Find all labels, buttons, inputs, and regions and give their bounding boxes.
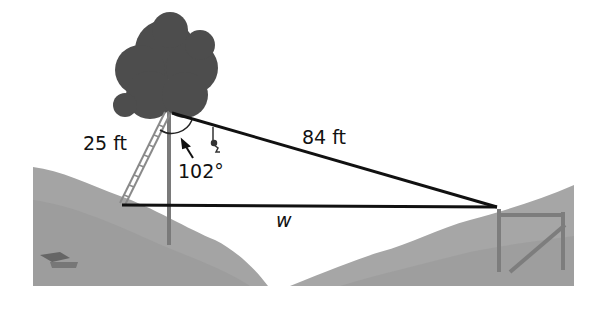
zipline-rider-icon bbox=[212, 127, 221, 152]
width-label: w bbox=[276, 211, 292, 230]
left-hill bbox=[33, 167, 268, 286]
diagram-canvas bbox=[0, 0, 592, 310]
ladder bbox=[120, 112, 170, 205]
side-width bbox=[122, 205, 497, 207]
ladder-length-label: 25 ft bbox=[83, 134, 127, 153]
angle-arrow-icon bbox=[182, 140, 193, 158]
angle-label: 102° bbox=[178, 162, 224, 181]
right-hill bbox=[290, 185, 574, 286]
tree-foliage bbox=[113, 12, 218, 119]
zipline-length-label: 84 ft bbox=[302, 128, 346, 147]
